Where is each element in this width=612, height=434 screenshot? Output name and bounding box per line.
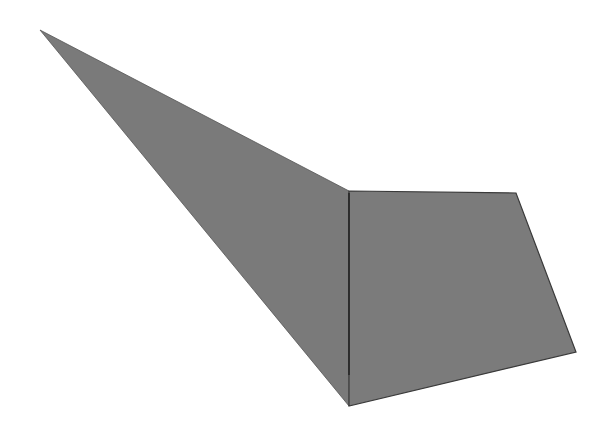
triangle-shape xyxy=(40,30,349,406)
diagram-canvas xyxy=(0,0,612,434)
quadrilateral-shape xyxy=(349,191,576,406)
diagram-svg xyxy=(0,0,612,434)
